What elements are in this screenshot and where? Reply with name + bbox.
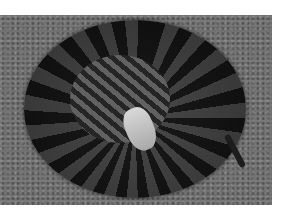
photo — [0, 15, 272, 205]
